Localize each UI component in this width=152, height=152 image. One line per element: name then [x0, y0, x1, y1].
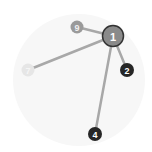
- node-label: 1: [110, 31, 116, 43]
- node-label: 7: [25, 66, 30, 76]
- network-graph: 97241: [0, 0, 152, 152]
- node-1[interactable]: 1: [103, 26, 124, 47]
- node-label: 4: [92, 130, 97, 140]
- node-2[interactable]: 2: [120, 63, 134, 77]
- node-label: 9: [74, 23, 79, 33]
- node-4[interactable]: 4: [88, 127, 102, 141]
- node-label: 2: [124, 66, 129, 76]
- node-7[interactable]: 7: [22, 64, 35, 77]
- node-9[interactable]: 9: [71, 21, 84, 34]
- background-circle: [13, 14, 145, 146]
